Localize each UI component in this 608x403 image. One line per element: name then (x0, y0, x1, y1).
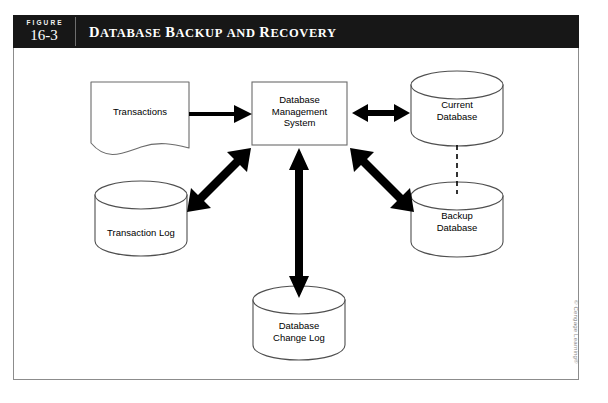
figure-number-block: FIGURE 16-3 (13, 15, 75, 48)
diagram-canvas: Transactions DatabaseManagementSystem Cu… (13, 48, 579, 380)
title-word-1-rest: ATABASE (100, 26, 161, 40)
current-database-shape (411, 71, 503, 146)
figure-root: FIGURE 16-3 DATABASE BACKUP AND RECOVERY (0, 0, 608, 403)
copyright-credit: © Cengage Learning® (573, 300, 579, 390)
figure-number: 16-3 (13, 27, 75, 44)
title-word-4-initial: R (259, 24, 270, 40)
title-word-3: AND (227, 26, 256, 40)
figure-label: FIGURE (13, 19, 75, 26)
connector-dbms-to-backup-database (350, 148, 414, 212)
dbms-shape (252, 82, 347, 145)
title-word-1-initial: D (89, 24, 100, 40)
header-divider (75, 17, 76, 46)
title-word-2-initial: B (165, 24, 175, 40)
diagram-svg (13, 48, 579, 380)
title-word-4-rest: ECOVERY (270, 26, 336, 40)
connector-dbms-to-transaction-log (187, 148, 251, 212)
connector-transactions-to-dbms (189, 105, 252, 123)
transaction-log-shape (95, 181, 187, 256)
figure-header-bar: FIGURE 16-3 DATABASE BACKUP AND RECOVERY (13, 15, 579, 48)
connector-dbms-to-current-database (352, 104, 410, 122)
transactions-shape (91, 82, 189, 154)
title-word-2-rest: ACKUP (175, 26, 222, 40)
connector-dbms-to-database-change-log (289, 148, 309, 298)
figure-title: DATABASE BACKUP AND RECOVERY (89, 24, 337, 41)
